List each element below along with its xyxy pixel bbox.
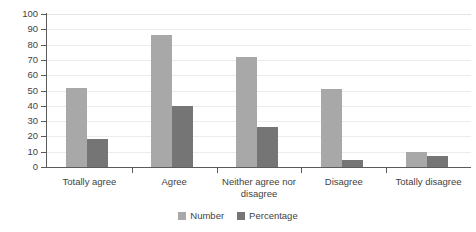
y-axis-line — [46, 13, 47, 168]
legend-item: Number — [178, 211, 224, 221]
x-axis-line — [46, 167, 471, 168]
y-tick-mark — [41, 167, 46, 168]
legend-label: Percentage — [249, 211, 298, 221]
chart-legend: NumberPercentage — [0, 211, 476, 221]
x-tick-mark — [217, 168, 218, 173]
x-tick-mark — [386, 168, 387, 173]
x-axis-label: Neither agree nor disagree — [213, 176, 306, 199]
legend-item: Percentage — [237, 211, 298, 221]
y-tick-label: 50 — [0, 86, 38, 96]
bar-number — [66, 88, 87, 167]
legend-swatch-icon — [237, 212, 245, 220]
bar-percentage — [342, 160, 363, 167]
y-tick-label: 70 — [0, 55, 38, 65]
y-tick-mark — [41, 29, 46, 30]
y-tick-mark — [41, 14, 46, 15]
x-tick-mark — [132, 168, 133, 173]
y-tick-mark — [41, 136, 46, 137]
y-tick-mark — [41, 152, 46, 153]
x-axis-label: Totally agree — [43, 176, 136, 188]
bar-number — [321, 89, 342, 167]
bar-percentage — [427, 156, 448, 167]
bar-percentage — [172, 106, 193, 167]
bar-number — [151, 35, 172, 167]
bar-number — [236, 57, 257, 167]
y-tick-label: 100 — [0, 9, 38, 19]
y-tick-mark — [41, 106, 46, 107]
x-axis-label: Agree — [128, 176, 221, 188]
bar-group — [236, 14, 278, 167]
plot-area — [47, 14, 471, 167]
legend-swatch-icon — [178, 212, 186, 220]
y-tick-label: 90 — [0, 24, 38, 34]
x-axis-label: Disagree — [297, 176, 390, 188]
y-tick-label: 30 — [0, 116, 38, 126]
legend-label: Number — [190, 211, 224, 221]
y-tick-label: 80 — [0, 40, 38, 50]
bar-group — [66, 14, 108, 167]
y-tick-mark — [41, 121, 46, 122]
x-axis-label: Totally disagree — [382, 176, 475, 188]
y-tick-mark — [41, 75, 46, 76]
y-tick-label: 0 — [0, 162, 38, 172]
y-tick-mark — [41, 91, 46, 92]
x-tick-mark — [301, 168, 302, 173]
bar-percentage — [257, 127, 278, 167]
bar-group — [321, 14, 363, 167]
bar-percentage — [87, 139, 108, 167]
bar-chart: 0102030405060708090100 Totally agreeAgre… — [0, 0, 476, 232]
bar-group — [406, 14, 448, 167]
y-tick-mark — [41, 45, 46, 46]
bar-number — [406, 152, 427, 167]
y-tick-label: 60 — [0, 70, 38, 80]
y-tick-mark — [41, 60, 46, 61]
y-tick-label: 10 — [0, 147, 38, 157]
y-tick-label: 40 — [0, 101, 38, 111]
bar-group — [151, 14, 193, 167]
y-tick-label: 20 — [0, 131, 38, 141]
